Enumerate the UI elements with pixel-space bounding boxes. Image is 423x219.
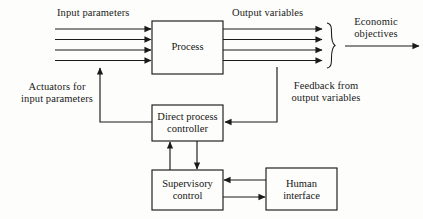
label-feedback-from-output-variables: Feedback from output variables bbox=[282, 80, 370, 103]
outputs-grouping-brace bbox=[327, 23, 335, 68]
actuators-path bbox=[100, 68, 152, 122]
box-label-process: Process bbox=[152, 41, 223, 53]
box-label-human-interface: Human interface bbox=[266, 178, 337, 202]
feedback-path bbox=[225, 67, 277, 122]
process-control-diagram: Process Direct process controller Superv… bbox=[0, 0, 423, 219]
label-economic-objectives: Economic objectives bbox=[345, 16, 407, 39]
box-label-supervisory-control: Supervisory control bbox=[152, 178, 223, 202]
box-label-direct-process-controller: Direct process controller bbox=[150, 111, 225, 135]
label-input-parameters: Input parameters bbox=[57, 7, 129, 19]
label-output-variables: Output variables bbox=[232, 7, 303, 19]
label-actuators-for-input-parameters: Actuators for input parameters bbox=[14, 81, 100, 104]
